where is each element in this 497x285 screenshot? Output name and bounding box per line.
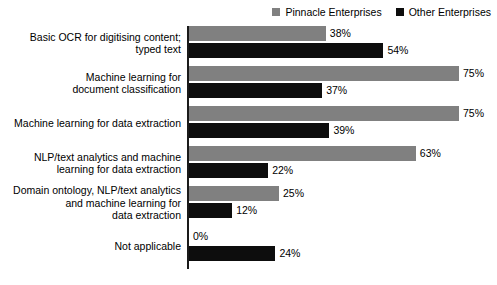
bar-row: 38%	[189, 26, 351, 41]
bar-row: 75%	[189, 66, 484, 81]
bar-value-label: 22%	[272, 165, 293, 176]
bar-series-b	[189, 246, 275, 261]
bar-row: 12%	[189, 203, 257, 218]
bar-row: 22%	[189, 163, 293, 178]
bar-series-a	[189, 146, 416, 161]
bar-series-a	[189, 106, 459, 121]
bar-value-label: 75%	[463, 108, 484, 119]
bar-series-a	[189, 66, 459, 81]
bar-value-label: 63%	[420, 148, 441, 159]
bar-series-b	[189, 83, 322, 98]
legend-item-pinnacle-enterprises: Pinnacle Enterprises	[272, 6, 381, 18]
plot-area: Basic OCR for digitising content; typed …	[0, 24, 497, 276]
category-label: Not applicable	[1, 240, 181, 253]
bar-row: 25%	[189, 186, 304, 201]
bar-value-label: 25%	[283, 188, 304, 199]
bar-value-label: 37%	[326, 85, 347, 96]
bar-row: 54%	[189, 43, 408, 58]
bar-series-b	[189, 203, 232, 218]
bar-value-label: 39%	[333, 125, 354, 136]
bar-value-label: 54%	[387, 45, 408, 56]
bar-series-a	[189, 186, 279, 201]
bar-value-label: 0%	[193, 231, 208, 242]
bar-row: 37%	[189, 83, 347, 98]
bar-series-b	[189, 163, 268, 178]
legend-swatch-other-enterprises	[396, 8, 404, 16]
category-label: Domain ontology, NLP/text analytics and …	[1, 184, 181, 222]
category-label: Machine learning for data extraction	[1, 117, 181, 130]
category-label: NLP/text analytics and machine learning …	[1, 151, 181, 176]
category-label: Machine learning for document classifica…	[1, 71, 181, 96]
chart-legend: Pinnacle Enterprises Other Enterprises	[0, 4, 497, 20]
legend-swatch-pinnacle-enterprises	[272, 8, 280, 16]
bar-value-label: 75%	[463, 68, 484, 79]
bar-row: 24%	[189, 246, 300, 261]
bar-series-b	[189, 123, 329, 138]
category-label: Basic OCR for digitising content; typed …	[1, 31, 181, 56]
legend-label-pinnacle-enterprises: Pinnacle Enterprises	[285, 6, 381, 18]
bar-series-b	[189, 43, 383, 58]
legend-item-other-enterprises: Other Enterprises	[396, 6, 491, 18]
legend-label-other-enterprises: Other Enterprises	[409, 6, 491, 18]
bar-value-label: 12%	[236, 205, 257, 216]
grouped-bar-chart: Pinnacle Enterprises Other Enterprises B…	[0, 0, 497, 285]
bar-row: 39%	[189, 123, 354, 138]
bar-row: 63%	[189, 146, 441, 161]
bar-series-a	[189, 26, 326, 41]
bar-value-label: 38%	[330, 28, 351, 39]
bar-row: 0%	[189, 229, 208, 244]
bar-row: 75%	[189, 106, 484, 121]
bar-value-label: 24%	[279, 248, 300, 259]
